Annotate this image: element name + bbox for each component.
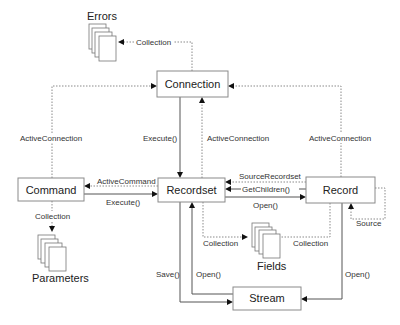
arrow-icon xyxy=(348,203,354,209)
record-fields-connector xyxy=(273,203,330,240)
command-box[interactable]: Command xyxy=(18,178,84,201)
arrow-icon xyxy=(228,83,234,89)
record-open-label: Open() xyxy=(253,201,278,210)
arrow-icon xyxy=(225,179,231,185)
connection-label: Connection xyxy=(165,78,221,90)
arrow-icon xyxy=(118,39,124,45)
arrow-icon xyxy=(227,299,233,305)
parameters-collection-icon xyxy=(38,235,66,271)
stream-open-label: Open() xyxy=(196,270,221,279)
errors-collection-icon xyxy=(89,24,116,61)
arrow-icon xyxy=(49,226,55,232)
record-active-connection-connector xyxy=(228,83,341,177)
command-active-connection-connector xyxy=(52,83,157,178)
source-recordset-label: SourceRecordset xyxy=(239,172,302,181)
parameters-label: Parameters xyxy=(32,272,89,284)
arrow-icon xyxy=(242,234,248,240)
command-execute-connector xyxy=(84,191,158,197)
arrow-icon xyxy=(177,172,183,178)
fields-label: Fields xyxy=(257,260,287,272)
ado-object-model-diagram: Errors Parameters Fields Connection Comm… xyxy=(0,0,400,325)
fields-collection-icon xyxy=(252,223,280,258)
arrow-icon xyxy=(152,191,158,197)
connection-box[interactable]: Connection xyxy=(157,71,228,97)
record-box[interactable]: Record xyxy=(306,177,375,203)
arrow-icon xyxy=(189,202,195,208)
recordset-fields-connector xyxy=(203,202,248,240)
command-label: Command xyxy=(26,184,77,196)
get-children-label: GetChildren() xyxy=(242,185,290,194)
errors-label: Errors xyxy=(87,10,117,22)
record-open-connector xyxy=(225,194,306,200)
arrow-icon xyxy=(151,83,157,89)
save-label: Save() xyxy=(156,270,180,279)
record-source-label: Source xyxy=(356,219,382,228)
stream-box[interactable]: Stream xyxy=(233,287,301,310)
record-active-connection-label: ActiveConnection xyxy=(309,134,371,143)
stream-label: Stream xyxy=(249,292,284,304)
arrow-icon xyxy=(300,194,306,200)
arrow-icon xyxy=(301,296,307,302)
connection-execute-connector xyxy=(177,97,183,178)
arrow-icon xyxy=(84,183,90,189)
parameters-collection-label: Collection xyxy=(35,212,70,221)
command-active-connection-label: ActiveConnection xyxy=(20,134,82,143)
save-connector xyxy=(180,202,233,305)
recordset-fields-collection-label: Collection xyxy=(203,239,238,248)
arrow-icon xyxy=(225,186,231,192)
active-command-label: ActiveCommand xyxy=(97,177,156,186)
connection-execute-label: Execute() xyxy=(143,134,178,143)
arrow-icon xyxy=(199,97,205,103)
record-label: Record xyxy=(323,184,358,196)
stream-open-connector xyxy=(189,202,233,294)
record-fields-collection-label: Collection xyxy=(293,239,328,248)
record-stream-open-label: Open() xyxy=(345,270,370,279)
recordset-active-connection-label: ActiveConnection xyxy=(207,134,269,143)
command-execute-label: Execute() xyxy=(106,198,141,207)
record-stream-open-connector xyxy=(301,203,342,302)
recordset-label: Recordset xyxy=(166,184,216,196)
errors-collection-label: Collection xyxy=(136,38,171,47)
recordset-active-connection-connector xyxy=(199,97,205,178)
recordset-box[interactable]: Recordset xyxy=(158,178,225,202)
